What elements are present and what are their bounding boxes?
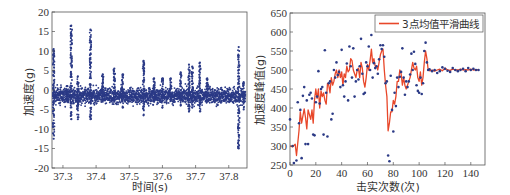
data-point bbox=[356, 69, 359, 72]
data-point bbox=[358, 65, 361, 68]
data-point bbox=[398, 76, 401, 79]
data-point bbox=[322, 133, 325, 136]
data-point bbox=[387, 154, 390, 157]
x-tick-label: 37.3 bbox=[53, 170, 73, 182]
data-point bbox=[457, 70, 460, 73]
data-point bbox=[400, 71, 403, 74]
y-tick-label: 350 bbox=[271, 121, 288, 133]
data-point bbox=[340, 49, 343, 52]
data-point bbox=[295, 159, 298, 162]
data-point bbox=[367, 45, 370, 48]
right-plot-area bbox=[290, 13, 485, 165]
data-point bbox=[423, 50, 426, 53]
x-tick-label: 120 bbox=[437, 167, 454, 179]
x-tick-label: 37.7 bbox=[186, 170, 206, 182]
x-tick-label: 37.4 bbox=[86, 170, 106, 182]
data-point bbox=[404, 93, 407, 96]
data-point bbox=[289, 118, 292, 121]
y-tick-label: 650 bbox=[271, 7, 288, 19]
data-point bbox=[446, 69, 449, 72]
data-point bbox=[410, 52, 413, 55]
data-point bbox=[380, 48, 383, 51]
y-tick-label: 300 bbox=[271, 140, 288, 152]
data-point bbox=[370, 34, 373, 37]
data-point bbox=[299, 109, 302, 112]
data-point bbox=[451, 67, 454, 70]
y-tick-label: 15 bbox=[38, 25, 50, 37]
data-point bbox=[419, 76, 422, 79]
x-tick-label: 100 bbox=[411, 167, 428, 179]
y-tick-label: 250 bbox=[271, 159, 288, 171]
data-point bbox=[339, 86, 342, 89]
data-point bbox=[383, 55, 386, 58]
data-point bbox=[331, 112, 334, 115]
figure: -20-15-10-505101520 37.337.437.537.637.7… bbox=[0, 0, 510, 195]
y-tick-label: -15 bbox=[34, 142, 49, 154]
data-point bbox=[414, 63, 417, 66]
data-point bbox=[415, 84, 418, 87]
data-point bbox=[386, 80, 389, 83]
data-point bbox=[462, 68, 465, 71]
acceleration-time-chart: -20-15-10-505101520 37.337.437.537.637.7… bbox=[22, 6, 247, 195]
data-point bbox=[477, 69, 480, 72]
data-point bbox=[411, 69, 414, 72]
data-point bbox=[330, 118, 333, 121]
data-point bbox=[348, 45, 351, 48]
legend-label: 3点均值平滑曲线 bbox=[402, 18, 480, 30]
data-point bbox=[361, 73, 364, 76]
data-point bbox=[325, 92, 328, 95]
data-point bbox=[335, 61, 338, 64]
data-point bbox=[459, 69, 462, 72]
data-point bbox=[360, 38, 363, 41]
data-point bbox=[309, 92, 312, 95]
y-tick-label: 20 bbox=[38, 6, 50, 18]
data-point bbox=[469, 69, 472, 72]
data-point bbox=[393, 92, 396, 95]
data-point bbox=[346, 62, 349, 65]
data-point bbox=[343, 95, 346, 98]
data-point bbox=[355, 80, 358, 83]
data-point bbox=[303, 86, 306, 89]
data-point bbox=[418, 92, 421, 95]
data-point bbox=[349, 65, 352, 68]
data-point bbox=[388, 160, 391, 163]
data-point bbox=[405, 80, 408, 83]
data-point bbox=[375, 65, 378, 68]
x-tick-label: 140 bbox=[463, 167, 480, 179]
left-x-axis-title: 时间(s) bbox=[132, 181, 168, 194]
data-point bbox=[467, 67, 470, 70]
data-point bbox=[433, 69, 436, 72]
data-point bbox=[439, 70, 442, 73]
x-tick-label: 40 bbox=[336, 167, 348, 179]
y-tick-label: 600 bbox=[271, 26, 288, 38]
data-point bbox=[396, 76, 399, 79]
data-point bbox=[351, 76, 354, 79]
data-point bbox=[342, 84, 345, 87]
data-point bbox=[464, 70, 467, 73]
data-point bbox=[324, 49, 327, 52]
y-tick-label: 0 bbox=[44, 84, 50, 96]
data-point bbox=[382, 44, 385, 47]
data-point bbox=[366, 65, 369, 68]
data-point bbox=[391, 109, 394, 112]
data-point bbox=[436, 72, 439, 75]
data-point bbox=[392, 130, 395, 133]
data-point bbox=[317, 70, 320, 73]
data-point bbox=[420, 93, 423, 96]
data-point bbox=[379, 44, 382, 47]
y-tick-label: 10 bbox=[38, 45, 50, 57]
y-tick-label: 400 bbox=[271, 102, 288, 114]
data-point bbox=[377, 73, 380, 76]
data-point bbox=[413, 50, 416, 53]
data-point bbox=[315, 101, 318, 104]
data-point bbox=[313, 134, 316, 137]
data-point bbox=[409, 73, 412, 76]
y-tick-label: -20 bbox=[34, 162, 49, 174]
y-tick-label: 550 bbox=[271, 45, 288, 57]
data-point bbox=[300, 157, 303, 160]
data-point bbox=[302, 95, 305, 98]
data-point bbox=[347, 99, 350, 102]
data-point bbox=[357, 78, 360, 81]
right-x-axis-title: 击实次数(次) bbox=[356, 180, 420, 194]
data-point bbox=[397, 86, 400, 89]
